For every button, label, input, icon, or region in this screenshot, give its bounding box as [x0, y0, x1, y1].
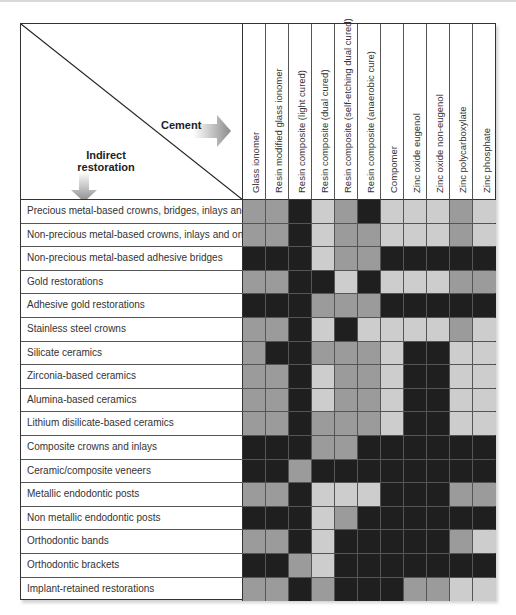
column-header: Zinc polycarboxylate	[450, 24, 473, 200]
heatmap-cell	[243, 483, 266, 506]
heatmap-cell	[243, 247, 266, 270]
row-label: Non-precious metal-based adhesive bridge…	[21, 247, 243, 270]
row-label: Adhesive gold restorations	[21, 294, 243, 317]
heatmap-cell	[450, 200, 473, 223]
heatmap-cell	[312, 483, 335, 506]
heatmap-cell	[404, 271, 427, 294]
heatmap-cell	[312, 507, 335, 530]
heatmap-cell	[427, 294, 450, 317]
heatmap-cell	[381, 365, 404, 388]
heatmap-cell	[450, 483, 473, 506]
heatmap-cell	[450, 460, 473, 483]
heatmap-cell	[381, 224, 404, 247]
heatmap-cell	[266, 530, 289, 553]
heatmap-cell	[289, 342, 312, 365]
heatmap-cell	[312, 530, 335, 553]
heatmap-cell	[289, 294, 312, 317]
heatmap-cell	[266, 342, 289, 365]
heatmap-cell	[381, 554, 404, 577]
heatmap-cell	[312, 578, 335, 602]
table-row: Gold restorations	[21, 271, 495, 295]
heatmap-cell	[266, 294, 289, 317]
heatmap-cell	[381, 342, 404, 365]
heatmap-cell	[381, 483, 404, 506]
heatmap-cell	[243, 342, 266, 365]
heatmap-cell	[358, 318, 381, 341]
row-label: Silicate ceramics	[21, 342, 243, 365]
heatmap-cell	[427, 578, 450, 602]
heatmap-cell	[473, 342, 496, 365]
heatmap-cell	[427, 483, 450, 506]
heatmap-cell	[473, 365, 496, 388]
heatmap-cell	[381, 530, 404, 553]
down-arrow-icon	[71, 172, 97, 200]
heatmap-cell	[243, 271, 266, 294]
heatmap-cell	[427, 365, 450, 388]
heatmap-cell	[312, 224, 335, 247]
heatmap-cell	[358, 412, 381, 435]
column-header-label: Glass ionomer	[250, 132, 261, 193]
cement-axis-label: Cement	[161, 119, 201, 131]
heatmap-cell	[289, 224, 312, 247]
heatmap-cell	[335, 365, 358, 388]
row-label: Gold restorations	[21, 271, 243, 294]
heatmap-cell	[335, 507, 358, 530]
heatmap-cell	[358, 578, 381, 602]
column-header-label: Compomer	[388, 146, 399, 193]
heatmap-cell	[358, 247, 381, 270]
heatmap-cell	[404, 578, 427, 602]
column-header-label: Resin modified glass ionomer	[273, 68, 284, 193]
heatmap-cell	[450, 318, 473, 341]
heatmap-cell	[450, 578, 473, 602]
heatmap-cell	[450, 342, 473, 365]
heatmap-cell	[358, 389, 381, 412]
heatmap-cell	[358, 271, 381, 294]
heatmap-cell	[427, 342, 450, 365]
heatmap-cell	[404, 530, 427, 553]
heatmap-cell	[381, 294, 404, 317]
heatmap-cell	[381, 436, 404, 459]
heatmap-cell	[335, 554, 358, 577]
heatmap-cell	[404, 294, 427, 317]
restoration-axis-label-line2: restoration	[61, 161, 151, 173]
heatmap-cell	[312, 294, 335, 317]
heatmap-cell	[404, 342, 427, 365]
heatmap-cell	[266, 365, 289, 388]
heatmap-cell	[404, 224, 427, 247]
heatmap-cell	[358, 224, 381, 247]
heatmap-cell	[450, 507, 473, 530]
table-row: Ceramic/composite veneers	[21, 460, 495, 484]
heatmap-cell	[358, 507, 381, 530]
heatmap-cell	[266, 554, 289, 577]
heatmap-cell	[266, 389, 289, 412]
heatmap-cell	[243, 365, 266, 388]
heatmap-cell	[381, 507, 404, 530]
heatmap-cell	[473, 460, 496, 483]
column-header-label: Zinc phosphate	[481, 128, 492, 193]
heatmap-cell	[335, 578, 358, 602]
row-label: Orthodontic brackets	[21, 554, 243, 577]
heatmap-cell	[450, 294, 473, 317]
heatmap-cell	[450, 412, 473, 435]
column-header: Resin modified glass ionomer	[266, 24, 289, 200]
heatmap-cell	[312, 412, 335, 435]
column-header-label: Zinc oxide eugenol	[411, 113, 422, 193]
heatmap-cell	[358, 365, 381, 388]
heatmap-cell	[289, 554, 312, 577]
table-row: Stainless steel crowns	[21, 318, 495, 342]
column-header-label: Zinc oxide non-eugenol	[434, 94, 445, 193]
heatmap-cell	[381, 389, 404, 412]
row-label: Zirconia-based ceramics	[21, 365, 243, 388]
heatmap-cell	[312, 342, 335, 365]
heatmap-cell	[473, 294, 496, 317]
heatmap-cell	[404, 365, 427, 388]
heatmap-cell	[404, 318, 427, 341]
heatmap-cell	[289, 247, 312, 270]
heatmap-cell	[427, 530, 450, 553]
heatmap-cell	[289, 200, 312, 223]
table-row: Lithium disilicate-based ceramics	[21, 412, 495, 436]
heatmap-cell	[473, 224, 496, 247]
heatmap-cell	[266, 483, 289, 506]
heatmap-cell	[312, 460, 335, 483]
heatmap-cell	[381, 247, 404, 270]
